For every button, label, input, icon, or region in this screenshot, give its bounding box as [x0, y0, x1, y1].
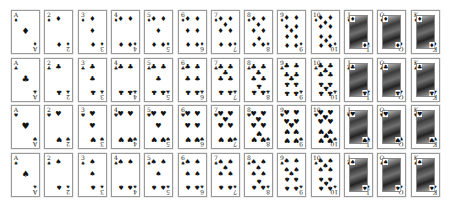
card-10-of-clubs[interactable]: 10♣10♣♣♣♣♣♣♣♣♣♣♣ [311, 58, 340, 102]
card-6-of-diamonds[interactable]: 6♦6♦♦♦♦♦♦♦ [178, 10, 207, 54]
diamonds-icon: ♦ [217, 28, 225, 35]
card-q-of-spades[interactable]: Q♠Q♠♠♠ [377, 153, 406, 197]
face-card-portrait: ♦♦ [349, 15, 368, 49]
diamonds-icon: ♦ [65, 41, 71, 46]
card-3-of-hearts[interactable]: 3♥3♥♥♥♥ [78, 105, 107, 149]
card-7-of-diamonds[interactable]: 7♦7♦♦♦♦♦♦♦♦ [211, 10, 240, 54]
spades-icon: ♠ [317, 167, 325, 174]
card-9-of-clubs[interactable]: 9♣9♣♣♣♣♣♣♣♣♣♣ [277, 58, 306, 102]
diamonds-icon: ♦ [159, 16, 167, 23]
card-6-of-hearts[interactable]: 6♥6♥♥♥♥♥♥♥ [178, 105, 207, 149]
card-4-of-diamonds[interactable]: 4♦4♦♦♦♦♦ [111, 10, 140, 54]
clubs-icon: ♣ [226, 88, 234, 95]
spades-icon: ♠ [259, 183, 267, 190]
hearts-icon: ♥ [362, 137, 367, 143]
spades-icon: ♠ [292, 184, 300, 191]
clubs-icon: ♣ [317, 89, 325, 96]
card-4-of-clubs[interactable]: 4♣4♣♣♣♣♣ [111, 58, 140, 102]
card-a-of-hearts[interactable]: A♥A♥♥ [11, 105, 40, 149]
card-9-of-diamonds[interactable]: 9♦9♦♦♦♦♦♦♦♦♦♦ [277, 10, 306, 54]
hearts-icon: ♥ [159, 135, 167, 142]
hearts-icon: ♥ [89, 123, 97, 130]
card-a-of-diamonds[interactable]: A♦A♦♦ [11, 10, 40, 54]
spades-icon: ♠ [226, 171, 234, 178]
clubs-icon: ♣ [417, 64, 422, 70]
card-4-of-spades[interactable]: 4♠4♠♠♠♠♠ [111, 153, 140, 197]
clubs-icon: ♣ [226, 76, 234, 83]
clubs-icon: ♣ [89, 88, 97, 95]
card-6-of-spades[interactable]: 6♠6♠♠♠♠♠♠♠ [178, 153, 207, 197]
card-7-of-hearts[interactable]: 7♥7♥♥♥♥♥♥♥♥ [211, 105, 240, 149]
card-k-of-spades[interactable]: K♠K♠♠♠ [411, 153, 440, 197]
hearts-icon: ♥ [317, 119, 325, 126]
card-a-of-clubs[interactable]: A♣A♣♣ [11, 58, 40, 102]
diamonds-icon: ♦ [292, 32, 300, 39]
hearts-icon: ♥ [65, 136, 71, 141]
spades-icon: ♠ [13, 161, 19, 166]
diamonds-icon: ♦ [226, 28, 234, 35]
spades-icon: ♠ [184, 183, 192, 190]
card-3-of-spades[interactable]: 3♠3♠♠♠♠ [78, 153, 107, 197]
diamonds-icon: ♦ [117, 16, 125, 23]
spades-icon: ♠ [99, 184, 105, 189]
card-7-of-clubs[interactable]: 7♣7♣♣♣♣♣♣♣♣ [211, 58, 240, 102]
card-index-bottom: 2♠ [65, 184, 71, 195]
card-j-of-diamonds[interactable]: J♦J♦♦♦ [344, 10, 373, 54]
spades-icon: ♠ [89, 183, 97, 190]
clubs-icon: ♣ [429, 90, 434, 96]
spades-icon: ♠ [217, 171, 225, 178]
card-a-of-spades[interactable]: A♠A♠♠ [11, 153, 40, 197]
diamonds-icon: ♦ [193, 16, 201, 23]
diamonds-icon: ♦ [226, 40, 234, 47]
hearts-icon: ♥ [184, 123, 192, 130]
card-q-of-hearts[interactable]: Q♥Q♥♥♥ [377, 105, 406, 149]
card-8-of-clubs[interactable]: 8♣8♣♣♣♣♣♣♣♣♣ [244, 58, 273, 102]
spades-icon: ♠ [283, 175, 291, 182]
card-9-of-spades[interactable]: 9♠9♠♠♠♠♠♠♠♠♠♠ [277, 153, 306, 197]
diamonds-icon: ♦ [89, 16, 97, 23]
card-q-of-clubs[interactable]: Q♣Q♣♣♣ [377, 58, 406, 102]
clubs-icon: ♣ [292, 63, 300, 70]
hearts-icon: ♥ [292, 110, 300, 117]
card-8-of-spades[interactable]: 8♠8♠♠♠♠♠♠♠♠♠ [244, 153, 273, 197]
card-q-of-diamonds[interactable]: Q♦Q♦♦♦ [377, 10, 406, 54]
spades-icon: ♠ [155, 171, 163, 178]
hearts-icon: ♥ [226, 135, 234, 142]
card-4-of-hearts[interactable]: 4♥4♥♥♥♥♥ [111, 105, 140, 149]
face-card-portrait: ♣♣ [416, 63, 435, 97]
card-2-of-spades[interactable]: 2♠2♠♠♠ [44, 153, 73, 197]
card-3-of-clubs[interactable]: 3♣3♣♣♣♣ [78, 58, 107, 102]
diamonds-icon: ♦ [193, 40, 201, 47]
card-6-of-clubs[interactable]: 6♣6♣♣♣♣♣♣♣ [178, 58, 207, 102]
spades-icon: ♠ [117, 183, 125, 190]
card-2-of-clubs[interactable]: 2♣2♣♣♣ [44, 58, 73, 102]
card-10-of-spades[interactable]: 10♠10♠♠♠♠♠♠♠♠♠♠♠ [311, 153, 340, 197]
card-5-of-spades[interactable]: 5♠5♠♠♠♠♠♠ [144, 153, 173, 197]
spades-icon: ♠ [126, 183, 134, 190]
card-8-of-hearts[interactable]: 8♥8♥♥♥♥♥♥♥♥♥ [244, 105, 273, 149]
card-10-of-hearts[interactable]: 10♥10♥♥♥♥♥♥♥♥♥♥♥ [311, 105, 340, 149]
card-k-of-clubs[interactable]: K♣K♣♣♣ [411, 58, 440, 102]
card-5-of-diamonds[interactable]: 5♦5♦♦♦♦♦♦ [144, 10, 173, 54]
card-k-of-hearts[interactable]: K♥K♥♥♥ [411, 105, 440, 149]
card-9-of-hearts[interactable]: 9♥9♥♥♥♥♥♥♥♥♥♥ [277, 105, 306, 149]
card-5-of-hearts[interactable]: 5♥5♥♥♥♥♥♥ [144, 105, 173, 149]
clubs-icon: ♣ [22, 76, 30, 83]
card-5-of-clubs[interactable]: 5♣5♣♣♣♣♣♣ [144, 58, 173, 102]
hearts-icon: ♥ [429, 137, 434, 143]
card-2-of-hearts[interactable]: 2♥2♥♥♥ [44, 105, 73, 149]
card-k-of-diamonds[interactable]: K♦K♦♦♦ [411, 10, 440, 54]
card-2-of-diamonds[interactable]: 2♦2♦♦♦ [44, 10, 73, 54]
diamonds-icon: ♦ [184, 40, 192, 47]
card-j-of-clubs[interactable]: J♣J♣♣♣ [344, 58, 373, 102]
spades-icon: ♠ [326, 167, 334, 174]
card-j-of-spades[interactable]: J♠J♠♠♠ [344, 153, 373, 197]
hearts-icon: ♥ [13, 113, 19, 118]
spades-icon: ♠ [159, 159, 167, 166]
card-3-of-diamonds[interactable]: 3♦3♦♦♦♦ [78, 10, 107, 54]
card-index-bottom: 2♦ [65, 41, 71, 52]
card-7-of-spades[interactable]: 7♠7♠♠♠♠♠♠♠♠ [211, 153, 240, 197]
card-10-of-diamonds[interactable]: 10♦10♦♦♦♦♦♦♦♦♦♦♦ [311, 10, 340, 54]
card-j-of-hearts[interactable]: J♥J♥♥♥ [344, 105, 373, 149]
card-8-of-diamonds[interactable]: 8♦8♦♦♦♦♦♦♦♦♦ [244, 10, 273, 54]
